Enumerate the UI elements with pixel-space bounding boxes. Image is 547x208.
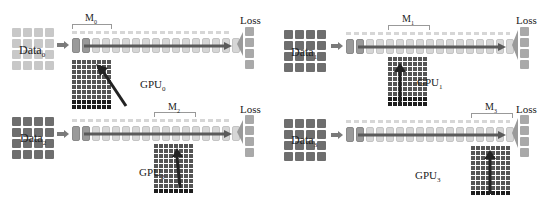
gpu-label-1: GPU1	[417, 76, 443, 91]
dash-row-1	[346, 32, 510, 35]
gpu-arrow-icon	[172, 148, 184, 188]
panel-3: Data3 M3 Loss GPU3	[273, 104, 546, 208]
pipeline-arrow-icon	[358, 131, 506, 139]
data-label-2: Data2	[20, 131, 46, 147]
backward-arrowhead-icon	[512, 118, 518, 148]
backward-arrowhead-icon	[237, 120, 243, 144]
model-label-1: M1	[388, 13, 428, 26]
data-label-3: Data3	[291, 133, 317, 149]
gpu-label-3: GPU3	[415, 169, 441, 184]
dash-row-3	[346, 120, 510, 123]
gpu-arrow-icon	[94, 62, 130, 108]
data-label-0: Data0	[19, 43, 45, 59]
dash-row-2	[72, 119, 232, 122]
panel-0: Data0 M0 Loss GPU0	[0, 0, 273, 104]
dash-row-0	[72, 31, 232, 34]
pipeline-arrow-icon	[358, 43, 506, 51]
gpu-arrow-icon	[394, 63, 406, 103]
loss-column-1	[520, 27, 529, 69]
model-label-0: M0	[72, 12, 110, 25]
input-arrow-icon	[331, 131, 343, 139]
pipeline-arrow-icon	[84, 130, 232, 138]
backward-arrowhead-icon	[237, 32, 243, 56]
panel-2: Data2 M2 Loss GPU2	[0, 104, 273, 208]
loss-column-0	[245, 27, 254, 69]
input-arrow-icon	[57, 130, 69, 138]
loss-label-3: Loss	[516, 103, 537, 115]
input-arrow-icon	[57, 41, 69, 49]
model-label-3: M3	[471, 101, 511, 114]
gpu-label-0: GPU0	[140, 78, 166, 93]
pipeline-arrow-icon	[84, 42, 232, 50]
loss-label-1: Loss	[516, 14, 537, 26]
panel-1: Data1 M1 Loss GPU1	[273, 0, 546, 104]
model-label-2: M2	[154, 101, 194, 114]
loss-label-2: Loss	[240, 103, 261, 115]
gpu-label-2: GPU2	[139, 166, 165, 181]
loss-column-2	[245, 115, 254, 157]
loss-label-0: Loss	[240, 14, 261, 26]
backward-arrowhead-icon	[512, 30, 518, 60]
loss-column-3	[520, 115, 529, 157]
data-label-1: Data1	[291, 45, 317, 61]
input-arrow-icon	[331, 42, 343, 50]
gpu-arrow-icon	[484, 150, 496, 194]
